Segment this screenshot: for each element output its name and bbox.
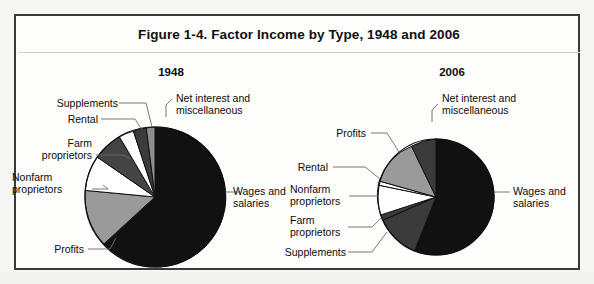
label-2006-wages-line1: Wages and — [513, 185, 566, 197]
label-1948-net-interest-line1: Net interest and — [176, 92, 250, 104]
panel-heading-2006: 2006 — [412, 66, 492, 78]
label-2006-farm-line2: proprietors — [290, 226, 340, 238]
label-2006-farm-proprietors: Farm proprietors — [290, 214, 370, 238]
screenshot-root: Figure 1-4. Factor Income by Type, 1948 … — [0, 0, 594, 284]
figure-title: Figure 1-4. Factor Income by Type, 1948 … — [16, 27, 582, 42]
title-divider — [18, 52, 580, 53]
label-1948-rental: Rental — [20, 113, 98, 125]
label-1948-wages-and-salaries: Wages and salaries — [233, 185, 286, 209]
label-2006-profits: Profits — [290, 127, 366, 139]
label-2006-wages-line2: salaries — [513, 197, 549, 209]
label-1948-net-interest-line2: miscellaneous — [176, 104, 243, 116]
label-1948-nonfarm-line1: Nonfarm — [12, 171, 52, 183]
label-1948-farm-proprietors: Farm proprietors — [12, 137, 92, 161]
label-1948-wages-line2: salaries — [233, 197, 269, 209]
label-2006-net-interest-line2: miscellaneous — [442, 104, 509, 116]
label-2006-nonfarm-line1: Nonfarm — [290, 183, 330, 195]
label-1948-farm-line1: Farm — [68, 137, 93, 149]
label-1948-nonfarm-proprietors: Nonfarm proprietors — [12, 171, 92, 195]
label-2006-net-interest-and-miscellaneous: Net interest and miscellaneous — [442, 92, 516, 116]
label-2006-nonfarm-proprietors: Nonfarm proprietors — [290, 183, 370, 207]
panel-heading-1948: 1948 — [131, 66, 211, 78]
label-1948-farm-line2: proprietors — [42, 149, 92, 161]
label-2006-net-interest-line1: Net interest and — [442, 92, 516, 104]
label-2006-wages-and-salaries: Wages and salaries — [513, 185, 566, 209]
label-1948-supplements: Supplements — [20, 97, 118, 109]
label-1948-nonfarm-line2: proprietors — [12, 183, 62, 195]
page-edge — [0, 272, 594, 284]
label-1948-net-interest-and-miscellaneous: Net interest and miscellaneous — [176, 92, 250, 116]
label-2006-supplements: Supplements — [270, 246, 346, 258]
label-1948-profits: Profits — [20, 243, 84, 255]
label-1948-wages-line1: Wages and — [233, 185, 286, 197]
label-2006-farm-line1: Farm — [290, 214, 315, 226]
label-2006-nonfarm-line2: proprietors — [290, 195, 340, 207]
label-2006-rental: Rental — [280, 161, 328, 173]
